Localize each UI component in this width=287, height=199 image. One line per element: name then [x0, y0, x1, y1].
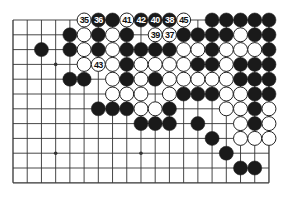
white-stone [106, 87, 120, 101]
black-stone [205, 43, 219, 57]
black-stone [63, 28, 77, 42]
black-stone [205, 13, 219, 27]
white-stone [134, 87, 148, 101]
black-stone [191, 28, 205, 42]
black-stone [234, 72, 248, 86]
black-stone [162, 117, 176, 131]
black-stone [248, 13, 262, 27]
black-stone [248, 161, 262, 175]
black-stone [162, 102, 176, 116]
black-stone [120, 28, 134, 42]
white-stone: 39 [148, 28, 162, 42]
white-stone [262, 102, 276, 116]
black-stone [191, 117, 205, 131]
black-stone [262, 13, 276, 27]
move-number-label: 42 [137, 15, 146, 25]
white-stone [134, 72, 148, 86]
white-stone [219, 102, 233, 116]
move-number-label: 36 [94, 15, 103, 25]
black-stone: 38 [162, 13, 176, 27]
black-stone [177, 28, 191, 42]
white-stone [148, 102, 162, 116]
white-stone [234, 102, 248, 116]
black-stone [134, 117, 148, 131]
white-stone [77, 57, 91, 71]
move-number-label: 39 [151, 30, 160, 40]
black-stone [191, 57, 205, 71]
white-stone [177, 43, 191, 57]
black-stone [262, 72, 276, 86]
black-stone [248, 102, 262, 116]
black-stone [63, 43, 77, 57]
black-stone [219, 28, 233, 42]
black-stone [177, 87, 191, 101]
white-stone: 41 [120, 13, 134, 27]
white-stone [134, 57, 148, 71]
white-stone [106, 28, 120, 42]
black-stone [234, 57, 248, 71]
black-stone [134, 43, 148, 57]
black-stone [120, 72, 134, 86]
move-number-label: 38 [165, 15, 174, 25]
black-stone [262, 57, 276, 71]
move-number-label: 37 [165, 30, 174, 40]
white-stone [262, 117, 276, 131]
white-stone: 37 [162, 28, 176, 42]
white-stone [177, 72, 191, 86]
black-stone [162, 43, 176, 57]
black-stone [120, 43, 134, 57]
white-stone [120, 87, 134, 101]
white-stone [162, 87, 176, 101]
black-stone [148, 72, 162, 86]
white-stone [177, 57, 191, 71]
white-stone [234, 87, 248, 101]
black-stone [248, 57, 262, 71]
black-stone [248, 87, 262, 101]
black-stone: 42 [134, 13, 148, 27]
black-stone [234, 13, 248, 27]
white-stone [219, 57, 233, 71]
star-point [54, 151, 58, 155]
white-stone [219, 72, 233, 86]
black-stone [34, 43, 48, 57]
black-stone [205, 28, 219, 42]
black-stone: 36 [91, 13, 105, 27]
black-stone [262, 28, 276, 42]
black-stone [106, 13, 120, 27]
black-stone [219, 13, 233, 27]
black-stone [191, 87, 205, 101]
white-stone [191, 43, 205, 57]
white-stone [77, 28, 91, 42]
white-stone [106, 57, 120, 71]
white-stone [162, 72, 176, 86]
star-point [139, 151, 143, 155]
white-stone [191, 72, 205, 86]
black-stone [91, 102, 105, 116]
black-stone [120, 57, 134, 71]
white-stone [134, 102, 148, 116]
black-stone [77, 72, 91, 86]
black-stone: 40 [148, 13, 162, 27]
move-number-label: 43 [94, 60, 103, 70]
white-stone [234, 131, 248, 145]
black-stone [148, 43, 162, 57]
white-stone: 35 [77, 13, 91, 27]
black-stone [248, 117, 262, 131]
white-stone [234, 28, 248, 42]
black-stone [91, 28, 105, 42]
black-stone [205, 131, 219, 145]
white-stone [262, 131, 276, 145]
black-stone [248, 72, 262, 86]
move-number-label: 40 [151, 15, 160, 25]
black-stone [248, 28, 262, 42]
move-number-label: 45 [179, 15, 188, 25]
white-stone [248, 43, 262, 57]
go-board: 35364142403845393743 [0, 0, 287, 199]
move-number-label: 35 [80, 15, 89, 25]
black-stone [262, 87, 276, 101]
white-stone [234, 117, 248, 131]
black-stone [106, 102, 120, 116]
white-stone [106, 43, 120, 57]
white-stone [77, 43, 91, 57]
white-stone [148, 57, 162, 71]
